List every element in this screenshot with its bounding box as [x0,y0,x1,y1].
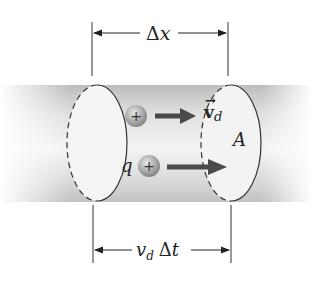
charge-label-q: q [121,155,133,176]
dx-label: Δx [146,22,171,44]
wire-fade-right [262,85,312,202]
charge-upper-sign: + [130,108,142,124]
vdt-label: vdΔt [136,239,180,263]
charge-lower-sign: + [143,158,155,174]
wire-fade-left [0,85,70,202]
current-diagram: Δx vdΔt + → vd q + A [0,0,312,282]
area-label: A [231,129,246,150]
